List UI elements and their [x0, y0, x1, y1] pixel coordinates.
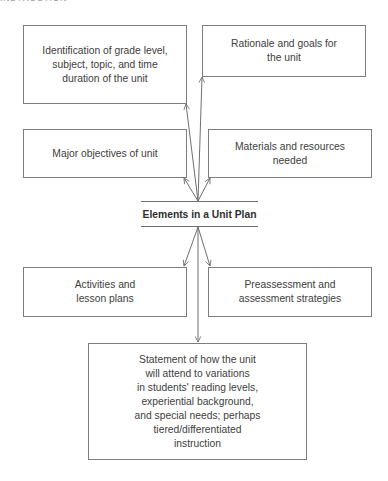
node-assessment: Preassessment and assessment strategies: [208, 267, 372, 317]
node-activities: Activities and lesson plans: [23, 267, 187, 317]
diagram-title: Elements in a Unit Plan: [141, 201, 258, 227]
node-materials: Materials and resources needed: [208, 129, 372, 178]
node-rationale-text: Rationale and goals for the unit: [231, 37, 337, 65]
diagram-title-text: Elements in a Unit Plan: [143, 209, 257, 220]
node-variations-text: Statement of how the unit will attend to…: [135, 353, 261, 451]
node-objectives-text: Major objectives of unit: [52, 147, 157, 161]
node-identification-text: Identification of grade level, subject, …: [42, 44, 167, 86]
node-materials-text: Materials and resources needed: [235, 140, 345, 168]
node-objectives: Major objectives of unit: [23, 129, 187, 178]
node-identification: Identification of grade level, subject, …: [23, 25, 187, 104]
node-assessment-text: Preassessment and assessment strategies: [239, 278, 341, 306]
node-variations: Statement of how the unit will attend to…: [88, 343, 307, 460]
node-rationale: Rationale and goals for the unit: [202, 25, 366, 77]
node-activities-text: Activities and lesson plans: [75, 278, 136, 306]
